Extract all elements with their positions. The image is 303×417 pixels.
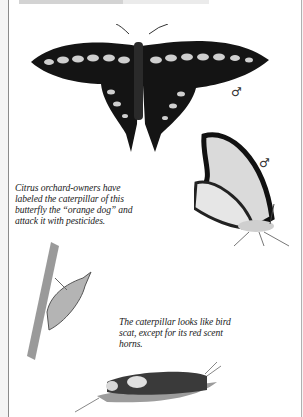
caterpillar-illustration xyxy=(67,358,227,413)
page-heading-cutoff xyxy=(19,0,209,4)
chrysalis-illustration xyxy=(21,242,111,362)
caption-orange-dog: Citrus orchard-owners have labeled the c… xyxy=(15,182,141,226)
male-symbol-ventral: ♂ xyxy=(259,156,270,170)
male-symbol-dorsal: ♂ xyxy=(231,85,242,99)
caption-bird-scat: The caterpillar looks like bird scat, ex… xyxy=(119,316,239,349)
book-page: ♂ ♂ Citrus orchard-owners have labeled t… xyxy=(8,0,302,417)
butterfly-ventral-illustration xyxy=(194,128,294,248)
